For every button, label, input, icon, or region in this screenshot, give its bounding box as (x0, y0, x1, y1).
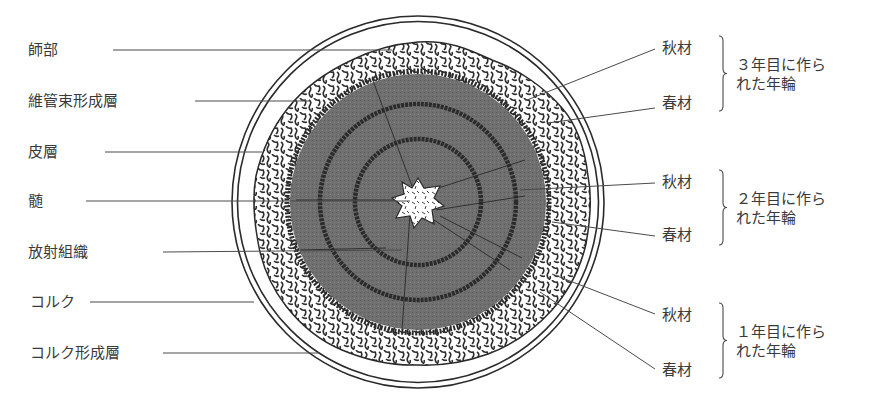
ring-group-line2: れた年輪 (736, 342, 826, 361)
label-cork-cambium: コルク形成層 (30, 344, 120, 362)
bracket-icon (719, 170, 727, 245)
label-cortex: 皮層 (28, 143, 58, 161)
label-latewood-year-2: 秋材 (662, 173, 692, 191)
ring-group-line2: れた年輪 (736, 209, 826, 228)
ring-group-year-3: ３年目に作ら れた年輪 (736, 56, 826, 94)
label-cork: コルク (30, 293, 75, 311)
label-earlywood-year-1: 春材 (662, 361, 692, 379)
ring-brackets (719, 36, 727, 378)
stem-cross-section-diagram: 師部 維管束形成層 皮層 髄 放射組織 コルク コルク形成層 秋材 春材 秋材 … (0, 0, 870, 404)
ring-group-year-1: １年目に作ら れた年輪 (736, 323, 826, 361)
label-pith: 髄 (28, 192, 43, 210)
ring-group-year-2: ２年目に作ら れた年輪 (736, 190, 826, 228)
ring-group-line1: １年目に作ら (736, 323, 826, 342)
label-phloem: 師部 (28, 41, 58, 59)
bracket-icon (719, 303, 727, 378)
ring-group-line2: れた年輪 (736, 75, 826, 94)
bracket-icon (719, 36, 727, 111)
leader-line (540, 292, 655, 369)
ring-group-line1: ３年目に作ら (736, 56, 826, 75)
label-earlywood-year-2: 春材 (662, 226, 692, 244)
label-latewood-year-1: 秋材 (662, 306, 692, 324)
ring-group-line1: ２年目に作ら (736, 190, 826, 209)
label-ray-tissue: 放射組織 (28, 243, 88, 261)
label-earlywood-year-3: 春材 (662, 94, 692, 112)
label-vascular-cambium: 維管束形成層 (28, 92, 118, 110)
label-latewood-year-3: 秋材 (662, 39, 692, 57)
